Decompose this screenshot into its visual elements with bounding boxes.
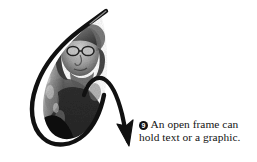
caption-line-1: 9An open frame can — [139, 118, 255, 131]
caption-line-1-text: An open frame can — [151, 118, 239, 130]
caption: 9An open frame can hold text or a graphi… — [139, 118, 255, 143]
caption-line-2-text: hold text or a graphic. — [139, 131, 255, 144]
numbered-bullet-icon: 9 — [139, 121, 148, 130]
figure-root: 9An open frame can hold text or a graphi… — [0, 0, 257, 162]
